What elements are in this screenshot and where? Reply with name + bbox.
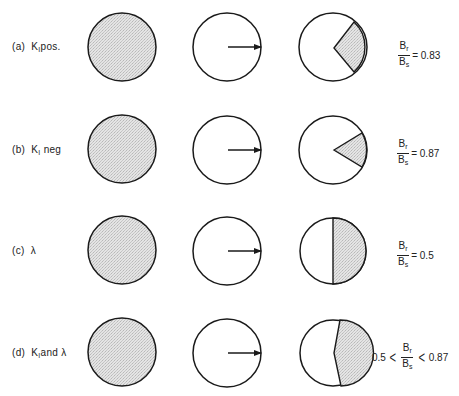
upper-bound-d: 0.87 — [429, 353, 448, 363]
ratio-denominator-sub-a: s — [406, 61, 410, 68]
row-b-graphics — [88, 115, 367, 184]
shaded-disk-b — [88, 115, 156, 183]
row-prefix-a: (a) — [12, 41, 25, 52]
ratio-numerator-sub-d: r — [410, 347, 412, 354]
ratio-inequality-d: 0.5 < Br Bs < 0.87 — [372, 342, 448, 373]
shaded-disk-d — [88, 318, 156, 386]
ratio-equation-c: Br Bs = 0.5 — [395, 240, 434, 271]
shaded-region-d — [334, 320, 374, 386]
row-symbol-sub-b: I — [38, 149, 40, 156]
row-a-graphics — [88, 13, 367, 81]
ratio-equation-b: Br Bs = 0.87 — [395, 138, 439, 169]
shaded-disk-c — [88, 216, 156, 284]
ratio-fraction-d: Br Bs — [401, 342, 413, 373]
ratio-denominator-d: B — [402, 358, 409, 369]
row-prefix-d: (d) — [12, 347, 25, 358]
lower-bound-d: 0.5 — [372, 353, 386, 363]
figure-graphics — [0, 0, 459, 396]
ratio-denominator-a: B — [399, 56, 406, 67]
ratio-value-a: = 0.83 — [412, 51, 440, 61]
shaded-disk-a — [88, 13, 156, 81]
row-label-d: (d) KIand λ — [12, 347, 67, 362]
row-symbol-c: λ — [31, 245, 36, 256]
row-suffix-d: and λ — [41, 347, 67, 358]
row-prefix-b: (b) — [12, 144, 25, 155]
shaded-half-c — [333, 218, 366, 284]
row-prefix-c: (c) — [12, 245, 25, 256]
row-c-graphics — [88, 216, 366, 285]
ratio-equation-a: Br Bs = 0.83 — [396, 40, 440, 71]
row-d-graphics — [88, 318, 374, 387]
ratio-fraction-a: Br Bs — [398, 40, 410, 71]
ratio-fraction-c: Br Bs — [397, 240, 409, 271]
row-label-c: (c) λ — [12, 245, 36, 257]
row-label-a: (a) KIpos. — [12, 41, 61, 56]
ratio-denominator-sub-c: s — [405, 261, 409, 268]
ratio-fraction-b: Br Bs — [397, 138, 409, 169]
row-suffix-b: neg — [44, 144, 62, 155]
ratio-denominator-sub-d: s — [409, 363, 413, 370]
ratio-numerator-sub-b: r — [405, 143, 407, 150]
ratio-numerator-sub-c: r — [405, 245, 407, 252]
ratio-value-b: = 0.87 — [411, 149, 439, 159]
ratio-numerator-d: B — [403, 342, 410, 353]
less-than-symbol-2: < — [419, 350, 426, 366]
row-label-b: (b) KI neg — [12, 144, 61, 159]
ratio-numerator-sub-a: r — [406, 45, 408, 52]
ratio-denominator-b: B — [398, 154, 405, 165]
ratio-value-c: = 0.5 — [411, 251, 434, 261]
ratio-denominator-sub-b: s — [405, 159, 409, 166]
flux-distribution-figure: (a) KIpos. (b) KI neg (c) λ (d) KIand λ … — [0, 0, 459, 396]
less-than-symbol-1: < — [389, 350, 396, 366]
ratio-denominator-c: B — [398, 256, 405, 267]
row-suffix-a: pos. — [41, 41, 61, 52]
